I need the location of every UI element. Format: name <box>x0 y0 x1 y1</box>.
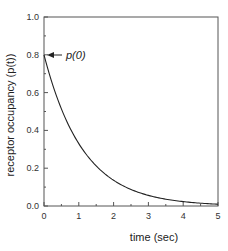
x-tick-label: 3 <box>146 211 151 221</box>
decay-chart: 0.00.20.40.60.81.0 012345 p(0) time (sec… <box>0 0 228 251</box>
plot-frame <box>44 17 218 206</box>
y-tick-label: 0.8 <box>26 50 39 60</box>
decay-curve <box>44 55 218 204</box>
x-tick-label: 0 <box>41 211 46 221</box>
arrow-left-icon <box>47 52 54 58</box>
annotation-label: p(0) <box>65 49 86 61</box>
y-tick-label: 0.2 <box>26 163 39 173</box>
y-axis-label: receptor occupancy (p(t)) <box>4 54 16 177</box>
y-tick-label: 0.0 <box>26 201 39 211</box>
x-tick-label: 1 <box>76 211 81 221</box>
y-tick-label: 1.0 <box>26 12 39 22</box>
y-tick-label: 0.6 <box>26 88 39 98</box>
x-axis-label: time (sec) <box>130 231 178 243</box>
x-tick-labels: 012345 <box>41 211 220 221</box>
x-tick-label: 2 <box>111 211 116 221</box>
x-tick-label: 4 <box>181 211 186 221</box>
p0-annotation: p(0) <box>47 49 86 61</box>
x-tick-label: 5 <box>215 211 220 221</box>
y-tick-labels: 0.00.20.40.60.81.0 <box>26 12 39 211</box>
y-tick-label: 0.4 <box>26 125 39 135</box>
axis-ticks <box>44 17 218 206</box>
